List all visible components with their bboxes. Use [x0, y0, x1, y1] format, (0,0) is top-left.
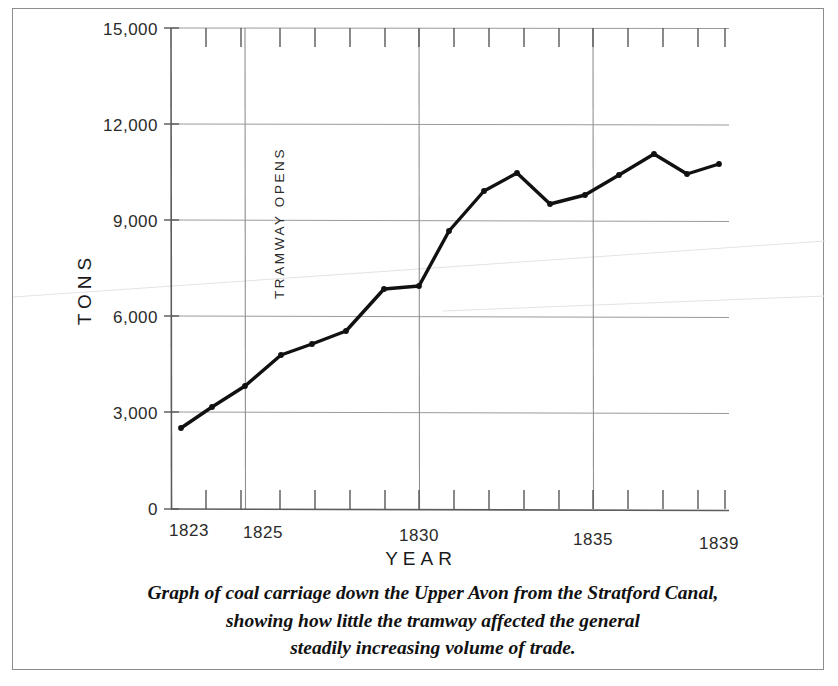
data-point	[309, 341, 315, 347]
xtick-label-1823: 1823	[169, 521, 209, 540]
data-point	[209, 404, 215, 410]
y-axis-line	[171, 28, 172, 509]
xtick-label-1825: 1825	[243, 523, 283, 542]
gridline-1830	[419, 28, 420, 509]
data-point	[178, 425, 184, 431]
plot-area-background	[171, 28, 729, 509]
data-point	[616, 172, 622, 178]
ytick-label-0: 0	[148, 500, 158, 519]
tramway-opens-annotation: TRAMWAY OPENS	[272, 147, 287, 299]
ytick-label-9000: 9,000	[113, 212, 158, 231]
data-point	[684, 171, 690, 177]
figure-caption: Graph of coal carriage down the Upper Av…	[53, 579, 813, 662]
x-axis-line	[171, 509, 729, 511]
caption-line-3: steadily increasing volume of trade.	[53, 634, 813, 662]
ytick-label-6000: 6,000	[113, 308, 158, 327]
data-point	[278, 352, 284, 358]
data-point	[481, 188, 487, 194]
data-point	[446, 228, 452, 234]
xtick-label-1835: 1835	[573, 530, 613, 549]
data-point	[416, 283, 422, 289]
coal-carriage-line-chart: 15,000 12,000 9,000 6,000 3,000 0 1823 1…	[13, 9, 825, 671]
figure-frame: 15,000 12,000 9,000 6,000 3,000 0 1823 1…	[12, 8, 824, 670]
data-point	[582, 192, 588, 198]
xtick-label-1830: 1830	[399, 526, 439, 545]
data-point	[514, 170, 520, 176]
gridline-15000	[171, 28, 729, 29]
data-point	[547, 201, 553, 207]
xtick-label-1839: 1839	[699, 534, 739, 553]
caption-line-2: showing how little the tramway affected …	[53, 607, 813, 635]
gridline-1825	[245, 28, 246, 509]
y-axis-title: TONS	[74, 253, 95, 325]
caption-line-1: Graph of coal carriage down the Upper Av…	[53, 579, 813, 607]
gridline-1835	[593, 28, 594, 509]
data-point	[381, 286, 387, 292]
x-axis-title: YEAR	[385, 548, 457, 569]
data-point	[716, 161, 722, 167]
ytick-label-3000: 3,000	[113, 404, 158, 423]
data-point	[651, 151, 657, 157]
ytick-label-15000: 15,000	[103, 20, 158, 39]
data-point	[242, 383, 248, 389]
data-point	[343, 328, 349, 334]
ytick-label-12000: 12,000	[103, 116, 158, 135]
